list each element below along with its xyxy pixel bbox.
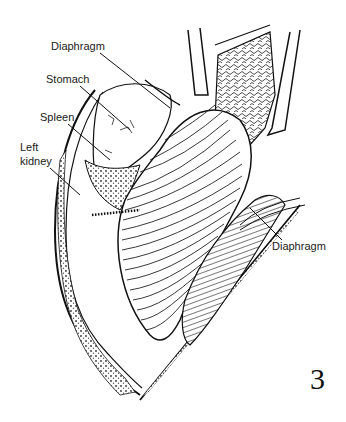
label-left-kidney-line2: kidney <box>20 155 52 168</box>
figure-number: 3 <box>310 362 325 396</box>
label-stomach: Stomach <box>46 73 89 86</box>
label-diaphragm-top: Diaphragm <box>51 40 105 53</box>
surgical-illustration <box>0 0 346 422</box>
label-diaphragm-right: Diaphragm <box>272 240 326 253</box>
label-left-kidney-line1: Left <box>20 141 38 154</box>
label-spleen: Spleen <box>40 111 74 124</box>
